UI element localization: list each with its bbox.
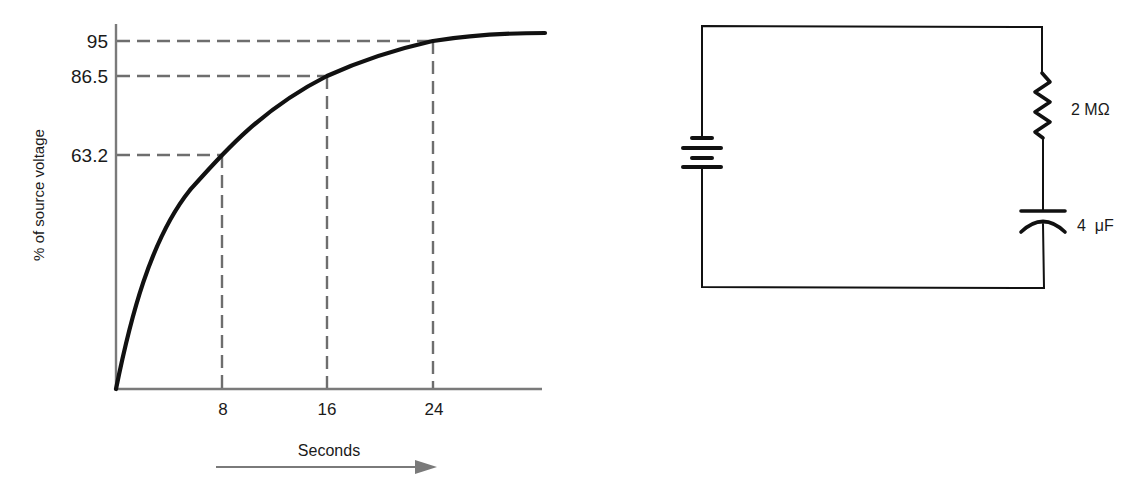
rc-circuit-diagram bbox=[683, 26, 1065, 288]
y-tick-95: 95 bbox=[87, 31, 108, 52]
y-tick-63-2: 63.2 bbox=[71, 145, 108, 166]
x-tick-8: 8 bbox=[218, 400, 227, 419]
x-axis-label: Seconds bbox=[298, 442, 360, 459]
resistor-label: 2 MΩ bbox=[1071, 101, 1110, 118]
reference-lines bbox=[117, 41, 433, 389]
charge-curve bbox=[116, 33, 545, 389]
circuit-wire-bottom bbox=[702, 167, 1044, 288]
x-tick-16: 16 bbox=[318, 400, 337, 419]
circuit-wire bbox=[702, 26, 1042, 138]
charge-curve-graph: 95 86.5 63.2 8 16 24 % of source voltage… bbox=[30, 24, 545, 474]
battery-icon bbox=[683, 138, 721, 167]
figure-canvas: 95 86.5 63.2 8 16 24 % of source voltage… bbox=[0, 0, 1133, 485]
resistor-icon bbox=[1035, 73, 1050, 138]
time-arrow-icon bbox=[216, 460, 437, 474]
y-tick-86-5: 86.5 bbox=[71, 66, 108, 87]
capacitor-label: 4 μF bbox=[1077, 217, 1114, 234]
y-axis-label: % of source voltage bbox=[30, 129, 47, 261]
x-tick-24: 24 bbox=[425, 400, 444, 419]
